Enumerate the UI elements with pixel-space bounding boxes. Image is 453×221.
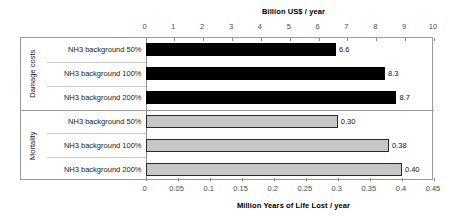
tick-mark [306, 178, 307, 181]
tick-mark [242, 178, 243, 181]
bar [146, 67, 385, 80]
category-label-row: NH3 background 50% [21, 38, 146, 62]
category-label: NH3 background 200% [64, 93, 146, 102]
tick-mark [434, 38, 435, 41]
bar-value-label: 0.38 [392, 139, 407, 152]
top-axis-title: Billion US$ / year [0, 7, 453, 16]
bar-value-label: 0.40 [405, 163, 420, 176]
tick-mark [405, 38, 406, 41]
tick-mark [232, 38, 233, 41]
category-label: NH3 background 50% [68, 45, 145, 54]
tick-mark [174, 38, 175, 41]
tick-mark [290, 38, 291, 41]
tick-mark [261, 38, 262, 41]
tick-label: 9 [402, 22, 406, 31]
top-axis-tick-labels: 012345678910 [145, 22, 434, 34]
tick-label: 10 [429, 22, 437, 31]
bar-value-label: 0.30 [341, 115, 356, 128]
tick-label: 0 [142, 184, 146, 193]
category-label-row: NH3 background 100% [21, 62, 146, 86]
bar-value-label: 8.7 [399, 91, 409, 104]
tick-mark [370, 178, 371, 181]
category-label: NH3 background 50% [68, 117, 145, 126]
tick-label: 2 [200, 22, 204, 31]
category-label: NH3 background 200% [64, 165, 146, 174]
bar [146, 115, 338, 128]
tick-mark [347, 38, 348, 41]
tick-mark [210, 178, 211, 181]
category-label-row: NH3 background 200% [21, 157, 146, 181]
tick-label: 0.4 [396, 184, 406, 193]
tick-mark [178, 178, 179, 181]
tick-label: 0.35 [362, 184, 377, 193]
tick-label: 0.45 [426, 184, 441, 193]
bar-value-label: 6.6 [339, 43, 349, 56]
category-label: NH3 background 100% [64, 69, 146, 78]
tick-label: 0.25 [297, 184, 312, 193]
bar [146, 91, 397, 104]
tick-label: 4 [258, 22, 262, 31]
tick-mark [434, 178, 435, 181]
tick-mark [146, 38, 147, 41]
bar [146, 43, 336, 56]
tick-label: 3 [229, 22, 233, 31]
tick-label: 0.3 [332, 184, 342, 193]
tick-label: 6 [316, 22, 320, 31]
bottom-axis-tick-labels: 00.050.10.150.20.250.30.350.40.45 [145, 184, 434, 196]
tick-label: 0.2 [268, 184, 278, 193]
tick-label: 0 [142, 22, 146, 31]
tick-label: 7 [344, 22, 348, 31]
bar [146, 163, 402, 176]
tick-mark [376, 38, 377, 41]
tick-label: 0.05 [169, 184, 184, 193]
tick-label: 5 [287, 22, 291, 31]
bottom-axis-title: Million Years of Life Lost / year [0, 201, 453, 210]
tick-mark [319, 38, 320, 41]
tick-mark [402, 178, 403, 181]
category-label-row: NH3 background 200% [21, 86, 146, 110]
tick-mark [338, 178, 339, 181]
tick-mark [146, 178, 147, 181]
bar-value-label: 8.3 [388, 67, 398, 80]
tick-label: 8 [373, 22, 377, 31]
category-label-row: NH3 background 50% [21, 110, 146, 134]
tick-mark [274, 178, 275, 181]
tick-label: 0.1 [203, 184, 213, 193]
bar [146, 139, 390, 152]
tick-label: 0.15 [233, 184, 248, 193]
category-label-row: NH3 background 100% [21, 133, 146, 157]
plot-area: Damage costs Mortality NH3 background 50… [20, 37, 433, 180]
tick-label: 1 [171, 22, 175, 31]
tick-mark [203, 38, 204, 41]
category-label: NH3 background 100% [64, 141, 146, 150]
bar-chart-figure: Billion US$ / year 012345678910 00.050.1… [0, 0, 453, 221]
